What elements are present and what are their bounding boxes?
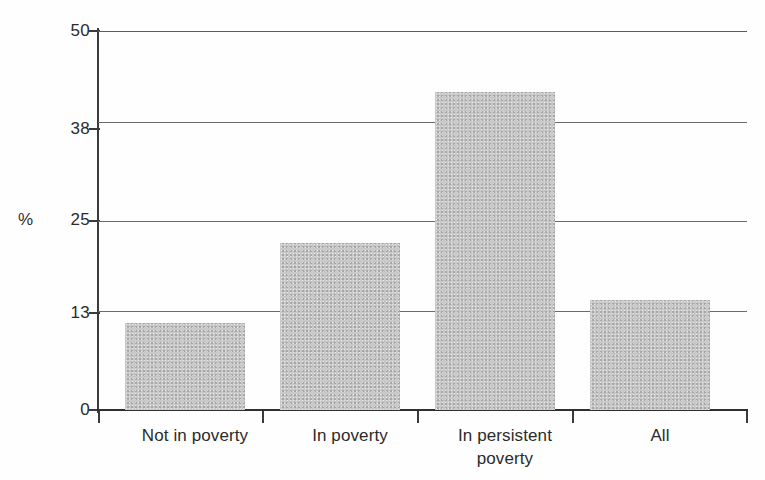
x-tick-mark-4 <box>746 411 748 423</box>
gridline-50 <box>98 31 747 32</box>
y-tick-label-13: 13 <box>48 303 90 323</box>
bar-in-poverty <box>280 243 400 410</box>
x-tick-label-in-persistent-poverty: In persistent poverty <box>415 424 595 470</box>
y-tick-label-38: 38 <box>48 119 90 139</box>
y-tick-label-50: 50 <box>48 21 90 41</box>
x-tick-label-line-2: poverty <box>415 447 595 470</box>
x-tick-label-line-1: In persistent <box>458 426 552 445</box>
y-tick-label-25: 25 <box>48 210 90 230</box>
y-axis-title: % <box>18 210 44 230</box>
x-tick-label-line-1: Not in poverty <box>142 426 248 445</box>
x-axis-tick-labels: Not in poverty In poverty In persistent … <box>98 424 747 480</box>
bar-not-in-poverty <box>125 323 245 410</box>
gridline-38 <box>98 122 747 123</box>
x-tick-label-line-1: In poverty <box>312 426 388 445</box>
x-tick-mark-0 <box>98 411 100 423</box>
x-tick-label-all: All <box>570 424 750 447</box>
x-tick-mark-1 <box>262 411 264 423</box>
bar-chart-figure: % 50 38 25 13 0 Not in poverty In pov <box>0 0 765 480</box>
bar-in-persistent-poverty <box>435 92 555 410</box>
x-tick-mark-3 <box>572 411 574 423</box>
x-tick-label-line-1: All <box>650 426 669 445</box>
gridline-25 <box>98 221 747 222</box>
x-tick-label-in-poverty: In poverty <box>260 424 440 447</box>
x-tick-mark-2 <box>417 411 419 423</box>
bar-all <box>590 300 710 410</box>
x-tick-label-not-in-poverty: Not in poverty <box>105 424 285 447</box>
plot-area <box>98 31 747 410</box>
y-axis-tick-labels: 50 38 25 13 0 <box>44 0 90 480</box>
y-tick-label-0: 0 <box>48 400 90 420</box>
